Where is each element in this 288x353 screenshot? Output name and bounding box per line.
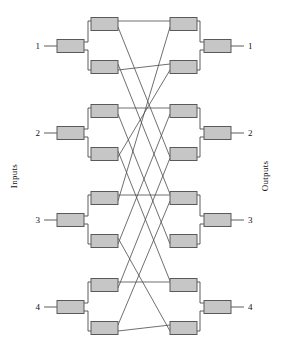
output-switch-box[interactable] [204,40,231,53]
output-fanin [197,224,204,244]
middle-right-switch-box[interactable] [170,235,197,248]
input-fanout [84,224,91,244]
input-switch-box[interactable] [57,214,84,227]
input-fanout [84,195,91,216]
switching-network-svg: 1 2 3 4 1 2 3 4 Inputs Outputs [0,0,288,353]
output-fanin [197,282,204,303]
output-fanin [197,50,204,70]
crossbar-wire-group [118,21,170,331]
input-port-label: 1 [36,41,41,51]
middle-right-switch-box[interactable] [170,18,197,31]
input-port-label: 4 [36,302,41,312]
output-port-label: 1 [248,41,253,51]
input-port-label: 3 [36,215,41,225]
input-fanout [84,50,91,70]
crossbar-wire [118,151,170,281]
middle-left-switch-box[interactable] [91,322,118,335]
output-switch-box[interactable] [204,214,231,227]
input-fanout [84,282,91,303]
middle-left-switch-box[interactable] [91,235,118,248]
input-switch-box[interactable] [57,301,84,314]
crossbar-wire [118,201,170,325]
output-port-label-group: 1 2 3 4 [248,41,253,312]
input-lead-group [44,21,91,331]
middle-left-switch-box[interactable] [91,105,118,118]
middle-left-switch-box[interactable] [91,148,118,161]
input-fanout [84,311,91,331]
input-fanout [84,21,91,42]
output-switch-group [204,40,231,314]
output-fanin [197,311,204,331]
input-switch-box[interactable] [57,40,84,53]
outputs-side-label: Outputs [260,161,270,192]
middle-right-switch-box[interactable] [170,322,197,335]
output-switch-box[interactable] [204,301,231,314]
crossbar-wire [118,238,170,331]
middle-right-switch-box[interactable] [170,61,197,74]
input-port-label-group: 1 2 3 4 [36,41,41,312]
input-switch-box[interactable] [57,127,84,140]
output-lead-group [197,21,244,331]
crossbar-wire [118,27,170,157]
input-fanout [84,108,91,129]
output-port-label: 4 [248,302,253,312]
output-fanin [197,108,204,129]
middle-right-switch-box[interactable] [170,148,197,161]
middle-left-switch-group [91,18,118,335]
network-diagram: 1 2 3 4 1 2 3 4 Inputs Outputs [0,0,288,353]
input-fanout [84,137,91,157]
output-switch-box[interactable] [204,127,231,140]
output-port-label: 3 [248,215,253,225]
middle-right-switch-group [170,18,197,335]
middle-left-switch-box[interactable] [91,61,118,74]
crossbar-wire [118,158,170,288]
output-fanin [197,195,204,216]
output-fanin [197,21,204,42]
middle-left-switch-box[interactable] [91,192,118,205]
input-port-label: 2 [36,128,41,138]
crossbar-wire [118,325,170,331]
middle-left-switch-box[interactable] [91,18,118,31]
output-port-label: 2 [248,128,253,138]
input-switch-group [57,40,84,314]
inputs-side-label: Inputs [9,164,19,188]
middle-right-switch-box[interactable] [170,192,197,205]
crossbar-wire [118,64,170,70]
output-fanin [197,137,204,157]
middle-right-switch-box[interactable] [170,279,197,292]
middle-left-switch-box[interactable] [91,279,118,292]
middle-right-switch-box[interactable] [170,105,197,118]
